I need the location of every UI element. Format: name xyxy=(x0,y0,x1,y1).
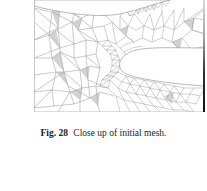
figure-caption: Fig. 28 Close up of initial mesh. xyxy=(0,127,207,139)
mesh-figure xyxy=(34,0,205,112)
figure-number: Fig. 28 xyxy=(41,128,68,138)
figure-caption-text: Close up of initial mesh. xyxy=(73,128,166,138)
figure-right-edge-bar xyxy=(203,0,205,112)
mesh-image xyxy=(34,0,205,112)
